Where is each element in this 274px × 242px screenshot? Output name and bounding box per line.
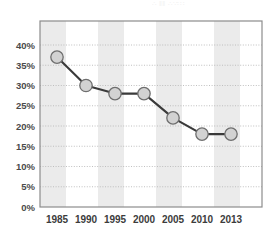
band bbox=[98, 21, 124, 207]
y-tick-label: 30% bbox=[16, 80, 36, 91]
x-tick-label: 1990 bbox=[75, 214, 98, 225]
band bbox=[214, 21, 240, 207]
x-tick-label: 2000 bbox=[133, 214, 156, 225]
y-tick-label: 35% bbox=[16, 60, 36, 71]
line-chart: 40% 35% 30% 25% 20% 15% 10% 5% 0% 1985 1… bbox=[0, 0, 274, 242]
x-tick-label: 2010 bbox=[191, 214, 214, 225]
data-point-2013[interactable] bbox=[225, 128, 237, 140]
x-tick-label: 1995 bbox=[104, 214, 127, 225]
x-axis-labels: 1985 1990 1995 2000 2005 2010 2013 bbox=[46, 214, 243, 225]
y-tick-label: 10% bbox=[16, 161, 36, 172]
y-axis-labels: 40% 35% 30% 25% 20% 15% 10% 5% 0% bbox=[16, 40, 36, 213]
y-tick-label: 20% bbox=[16, 121, 36, 132]
y-tick-label: 5% bbox=[21, 181, 35, 192]
data-point-1985[interactable] bbox=[51, 51, 63, 63]
band bbox=[40, 21, 66, 207]
y-tick-label: 25% bbox=[16, 100, 36, 111]
data-point-2010[interactable] bbox=[196, 128, 208, 140]
data-point-2005[interactable] bbox=[167, 112, 179, 124]
data-point-2000[interactable] bbox=[138, 87, 150, 99]
x-tick-label: 2005 bbox=[162, 214, 185, 225]
y-tick-label: 15% bbox=[16, 141, 36, 152]
chart-container: ∴ ‖‖ ∴∵∶∷ bbox=[0, 0, 274, 242]
y-tick-label: 40% bbox=[16, 40, 36, 51]
x-tick-label: 1985 bbox=[46, 214, 69, 225]
y-tick-label: 0% bbox=[21, 202, 35, 213]
data-point-1995[interactable] bbox=[109, 87, 121, 99]
data-point-1990[interactable] bbox=[80, 79, 92, 91]
x-tick-label: 2013 bbox=[220, 214, 243, 225]
